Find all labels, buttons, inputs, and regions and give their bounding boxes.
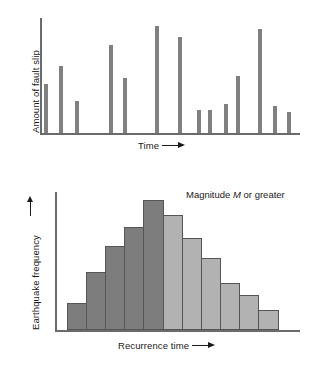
frequency-y-axis-line: [55, 192, 57, 330]
two-panel-figure: Amount of fault slip Time Earthquake fre…: [0, 0, 319, 365]
slip-spike: [59, 66, 63, 133]
frequency-x-axis-label-text: Recurrence time: [118, 340, 189, 351]
slip-spike: [155, 26, 159, 133]
slip-y-axis-line: [40, 18, 42, 133]
frequency-x-axis-line: [55, 330, 300, 332]
slip-spike: [75, 101, 79, 133]
histogram-bar: [258, 310, 279, 330]
right-arrow-icon: [162, 142, 186, 150]
frequency-y-axis-label: Earthquake frequency: [30, 235, 41, 330]
slip-spike: [109, 45, 113, 133]
histogram-bar: [143, 200, 164, 330]
frequency-x-axis-label: Recurrence time: [118, 340, 216, 351]
histogram-bar: [105, 246, 125, 330]
slip-x-axis-label-text: Time: [138, 140, 159, 151]
slip-x-axis-label: Time: [138, 140, 186, 151]
histogram-bar: [124, 227, 144, 330]
up-arrow-icon: [26, 196, 35, 216]
magnitude-annotation: Magnitude M or greater: [186, 189, 285, 200]
slip-spike: [236, 76, 240, 133]
annotation-suffix: or greater: [241, 189, 285, 200]
slip-spike: [287, 112, 291, 133]
slip-spike: [44, 84, 48, 133]
histogram-bar: [163, 215, 183, 330]
histogram-bar: [220, 283, 240, 330]
histogram-bar: [86, 272, 106, 330]
earthquake-frequency-chart: Earthquake frequency Magnitude M or grea…: [0, 180, 319, 365]
slip-spike: [123, 78, 127, 133]
histogram-bar: [67, 303, 87, 330]
annotation-prefix: Magnitude: [186, 189, 233, 200]
histogram-bar: [182, 238, 202, 330]
histogram-bar: [201, 258, 221, 330]
slip-spike: [197, 110, 201, 133]
slip-x-axis-line: [40, 133, 300, 135]
slip-spike: [208, 110, 212, 133]
annotation-magnitude-symbol: M: [233, 189, 241, 200]
right-arrow-icon: [192, 342, 216, 350]
slip-spike: [224, 104, 228, 133]
slip-spike: [273, 106, 277, 133]
fault-slip-chart: Amount of fault slip Time: [0, 0, 319, 160]
slip-spike: [178, 37, 182, 133]
histogram-bar: [239, 295, 259, 330]
slip-spike: [258, 29, 262, 133]
